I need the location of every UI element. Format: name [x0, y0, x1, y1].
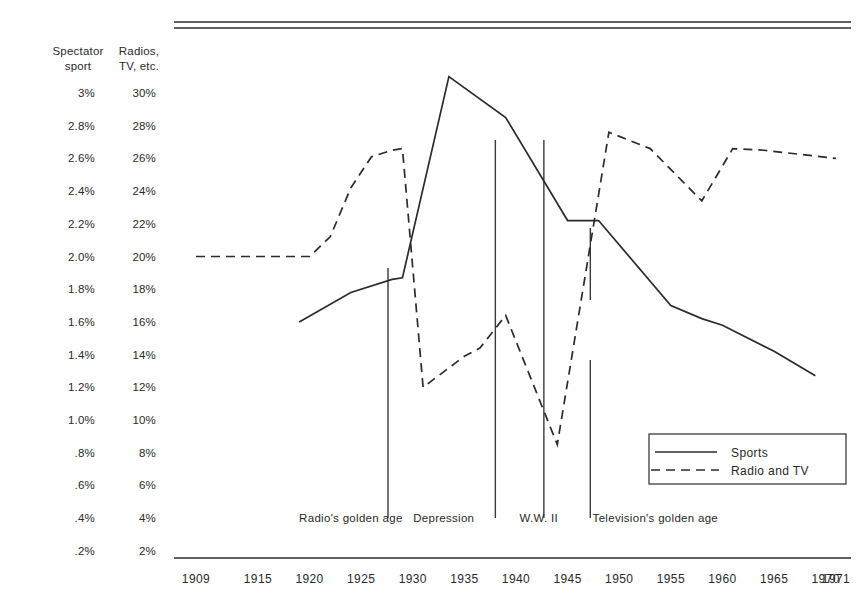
- x-tick-label: 1955: [657, 572, 685, 586]
- legend-label-sports: Sports: [731, 446, 768, 460]
- y-tick-label-radiotv: 14%: [132, 349, 156, 361]
- y-tick-label-spectator: 1.2%: [68, 381, 95, 393]
- axis-header-spectator-line2: sport: [65, 60, 92, 72]
- y-tick-label-spectator: 1.0%: [68, 414, 95, 426]
- y-tick-label-radiotv: 16%: [132, 316, 156, 328]
- era-label: W.W. II: [519, 512, 558, 524]
- y-tick-label-spectator: 2.8%: [68, 120, 95, 132]
- y-tick-label-spectator: .4%: [75, 512, 95, 524]
- chart-figure: Spectator sport Radios, TV, etc. 3%2.8%2…: [0, 0, 857, 612]
- y-tick-label-spectator: 2.0%: [68, 251, 95, 263]
- x-tick-label: 1940: [502, 572, 530, 586]
- x-tick-label: 1930: [399, 572, 427, 586]
- y-axis-headers: Spectator sport Radios, TV, etc.: [52, 45, 159, 72]
- x-tick-label: 1965: [760, 572, 788, 586]
- x-tick-label: 1971: [822, 572, 850, 586]
- x-tick-label: 1935: [450, 572, 478, 586]
- axis-header-radiotv-line2: TV, etc.: [119, 60, 159, 72]
- series-line-sports: [299, 77, 815, 376]
- y-tick-label-spectator: 1.8%: [68, 283, 95, 295]
- y-tick-label-spectator: 2.4%: [68, 185, 95, 197]
- y-tick-label-radiotv: 2%: [139, 545, 156, 557]
- y-tick-label-radiotv: 22%: [132, 218, 156, 230]
- y-tick-label-spectator: 2.6%: [68, 152, 95, 164]
- x-tick-label: 1909: [182, 572, 210, 586]
- x-axis-ticks: 1909191519201925193019351940194519501955…: [182, 572, 850, 586]
- era-divider-lines: [388, 140, 590, 518]
- y-tick-label-radiotv: 28%: [132, 120, 156, 132]
- x-tick-label: 1950: [605, 572, 633, 586]
- y-tick-label-spectator: 1.4%: [68, 349, 95, 361]
- y-tick-label-radiotv: 24%: [132, 185, 156, 197]
- y-tick-label-radiotv: 20%: [132, 251, 156, 263]
- y-axis-ticks-radiotv: 30%28%26%24%22%20%18%16%14%12%10%8%6%4%2…: [132, 87, 156, 557]
- x-tick-label: 1960: [708, 572, 736, 586]
- y-tick-label-spectator: 2.2%: [68, 218, 95, 230]
- chart-canvas: Spectator sport Radios, TV, etc. 3%2.8%2…: [0, 0, 857, 612]
- y-tick-label-radiotv: 26%: [132, 152, 156, 164]
- x-tick-label: 1945: [553, 572, 581, 586]
- axis-header-spectator-line1: Spectator: [52, 45, 103, 57]
- y-tick-label-radiotv: 18%: [132, 283, 156, 295]
- era-label: Radio's golden age: [299, 512, 403, 524]
- top-double-rule: [174, 22, 851, 28]
- x-tick-label: 1915: [244, 572, 272, 586]
- data-series-group: [196, 77, 836, 445]
- y-tick-label-radiotv: 6%: [139, 479, 156, 491]
- y-tick-label-spectator: .6%: [75, 479, 95, 491]
- y-tick-label-radiotv: 4%: [139, 512, 156, 524]
- x-tick-label: 1920: [295, 572, 323, 586]
- y-tick-label-spectator: .8%: [75, 447, 95, 459]
- legend-label-radio-tv: Radio and TV: [731, 464, 809, 478]
- y-tick-label-spectator: 1.6%: [68, 316, 95, 328]
- x-tick-label: 1925: [347, 572, 375, 586]
- era-annotation-labels: Radio's golden ageDepressionW.W. IITelev…: [299, 512, 718, 524]
- series-line-radio-and-tv: [196, 132, 836, 444]
- era-label: Television's golden age: [593, 512, 718, 524]
- y-tick-label-radiotv: 10%: [132, 414, 156, 426]
- y-tick-label-radiotv: 12%: [132, 381, 156, 393]
- axis-header-radiotv-line1: Radios,: [119, 45, 159, 57]
- era-label: Depression: [413, 512, 474, 524]
- y-axis-ticks-spectator: 3%2.8%2.6%2.4%2.2%2.0%1.8%1.6%1.4%1.2%1.…: [68, 87, 95, 557]
- legend: Sports Radio and TV: [649, 434, 846, 484]
- y-tick-label-radiotv: 8%: [139, 447, 156, 459]
- y-tick-label-radiotv: 30%: [132, 87, 156, 99]
- y-tick-label-spectator: 3%: [78, 87, 95, 99]
- y-tick-label-spectator: .2%: [75, 545, 95, 557]
